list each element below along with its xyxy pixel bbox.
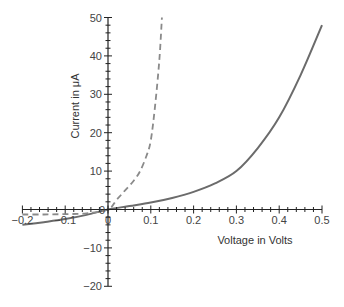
x-axis-title: Voltage in Volts xyxy=(217,234,293,246)
x-tick-label: −0.2 xyxy=(12,214,34,226)
x-tick-label: 0.1 xyxy=(143,214,158,226)
x-tick-label: 0.2 xyxy=(186,214,201,226)
x-tick-label: 0 xyxy=(105,214,111,226)
iv-curve-chart: −0.2−0.100.10.20.30.40.5 −20−10010203040… xyxy=(0,0,344,307)
y-tick-label: 20 xyxy=(90,127,102,139)
y-tick-label: −20 xyxy=(83,280,102,292)
x-tick-label: −0.1 xyxy=(54,214,76,226)
dashed-series-line xyxy=(22,18,162,215)
solid-series-line xyxy=(22,25,322,225)
y-tick-label: 50 xyxy=(90,12,102,24)
y-tick-label: 10 xyxy=(90,165,102,177)
x-tick-label: 0.4 xyxy=(272,214,287,226)
axes: −0.2−0.100.10.20.30.40.5 −20−10010203040… xyxy=(12,12,330,293)
y-tick-label: −10 xyxy=(83,242,102,254)
y-axis-title: Current in μA xyxy=(69,73,81,139)
x-tick-label: 0.3 xyxy=(229,214,244,226)
y-tick-label: 40 xyxy=(90,50,102,62)
series-layer xyxy=(22,18,322,225)
y-tick-label: 30 xyxy=(90,88,102,100)
x-tick-label: 0.5 xyxy=(314,214,329,226)
x-axis-ticks: −0.2−0.100.10.20.30.40.5 xyxy=(12,206,330,226)
y-tick-label: 0 xyxy=(99,204,105,216)
